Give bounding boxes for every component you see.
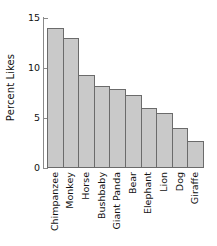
- x-tick-label-text: Giraffe: [190, 172, 200, 204]
- y-axis-line: [43, 17, 44, 169]
- y-tick-label-text: 5: [20, 113, 40, 123]
- x-tick-label-text: Monkey: [66, 172, 76, 209]
- x-tick-label-text: Dog: [175, 172, 185, 191]
- x-tick-label: Elephant: [141, 170, 157, 246]
- bar: [63, 38, 80, 168]
- bar: [109, 89, 126, 168]
- bar: [78, 75, 95, 168]
- x-tick-label: Chimpanzee: [47, 170, 63, 246]
- y-axis-title: Percent Likes: [0, 0, 22, 175]
- bar: [125, 95, 142, 168]
- x-tick-label-text: Elephant: [144, 172, 154, 214]
- bar: [156, 113, 173, 168]
- y-tick-label: 10: [20, 63, 40, 73]
- x-tick-label: Giant Panda: [109, 170, 125, 246]
- x-tick-label-text: Giant Panda: [112, 172, 122, 230]
- x-tick-label-text: Bear: [128, 172, 138, 194]
- y-tick-label-text: 15: [20, 13, 40, 23]
- x-tick-label: Lion: [156, 170, 172, 246]
- bar-chart: Percent Likes 051015 ChimpanzeeMonkeyHor…: [0, 0, 217, 246]
- bar: [47, 28, 64, 168]
- x-tick-label-text: Horse: [81, 172, 91, 200]
- bar: [94, 86, 111, 168]
- x-tick-label: Horse: [78, 170, 94, 246]
- x-tick-label: Bear: [125, 170, 141, 246]
- y-axis-title-text: Percent Likes: [6, 54, 17, 121]
- x-tick-label: Giraffe: [187, 170, 203, 246]
- x-tick-label: Monkey: [63, 170, 79, 246]
- x-tick-label-text: Bushbaby: [97, 172, 107, 219]
- x-axis-tick-labels: ChimpanzeeMonkeyHorseBushbabyGiant Panda…: [47, 170, 203, 246]
- bar: [141, 108, 158, 168]
- y-tick-mark: [44, 168, 48, 169]
- x-tick-label: Dog: [172, 170, 188, 246]
- bar: [172, 128, 189, 168]
- y-tick-label-text: 0: [20, 163, 40, 173]
- bar: [187, 141, 204, 168]
- x-tick-label: Bushbaby: [94, 170, 110, 246]
- plot-area: [47, 18, 203, 168]
- y-tick-label: 15: [20, 13, 40, 23]
- x-tick-label-text: Lion: [159, 172, 169, 192]
- x-tick-label-text: Chimpanzee: [50, 172, 60, 231]
- y-tick-label: 5: [20, 113, 40, 123]
- y-tick-label-text: 10: [20, 63, 40, 73]
- y-tick-label: 0: [20, 163, 40, 173]
